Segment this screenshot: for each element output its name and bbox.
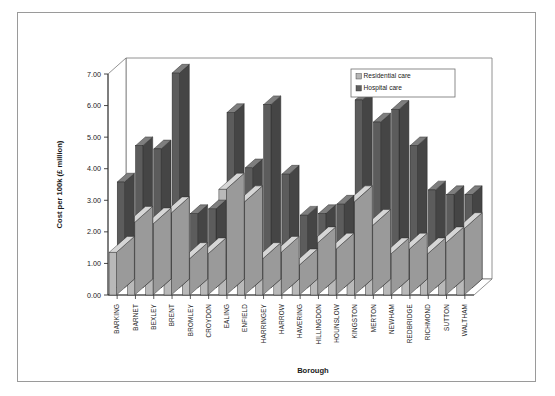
x-axis-category-label: BROMLEY bbox=[187, 303, 194, 336]
y-axis-title: Cost per 100k (£ million) bbox=[55, 140, 64, 228]
legend-label: Hospital care bbox=[364, 84, 403, 92]
x-axis-title: Borough bbox=[297, 366, 329, 375]
legend-swatch bbox=[356, 86, 361, 91]
y-axis-tick-label: 2.00 bbox=[87, 227, 101, 236]
y-axis-tick-label: 0.00 bbox=[87, 291, 101, 300]
y-axis-tick-label: 6.00 bbox=[87, 101, 101, 110]
x-axis-category-label: HARROW bbox=[278, 304, 285, 334]
x-axis-category-label: BARNET bbox=[132, 304, 139, 331]
y-axis-tick-label: 1.00 bbox=[87, 259, 101, 268]
x-axis-category-label: ENFIELD bbox=[241, 304, 248, 332]
y-axis-tick-label: 3.00 bbox=[87, 196, 101, 205]
x-axis-category-label: CROYDON bbox=[205, 304, 212, 338]
x-axis-category-label: WALTHAM bbox=[461, 304, 468, 336]
legend-swatch bbox=[356, 74, 361, 79]
x-axis-category-label: RICHMOND bbox=[424, 304, 431, 340]
x-axis-category-label: REDBRIDGE bbox=[406, 304, 413, 343]
x-axis-category-label: SUTTON bbox=[443, 304, 450, 331]
x-axis-category-label: HOUNSLOW bbox=[333, 304, 340, 343]
x-axis-category-label: BRENT bbox=[168, 304, 175, 326]
x-axis-category-label: HARRINGEY bbox=[260, 303, 267, 343]
x-axis-category-label: MERTON bbox=[370, 304, 377, 333]
x-axis-category-label: NEWHAM bbox=[388, 304, 395, 334]
y-axis-tick-label: 5.00 bbox=[87, 133, 101, 142]
x-axis-category-label: EALING bbox=[223, 304, 230, 328]
y-axis-tick-label: 7.00 bbox=[87, 70, 101, 79]
screenshot-root: 0.001.002.003.004.005.006.007.00Cost per… bbox=[0, 0, 555, 396]
x-axis-category-label: HILLINGDON bbox=[315, 304, 322, 345]
x-axis-category-label: BARKING bbox=[113, 304, 120, 334]
legend-label: Residential care bbox=[364, 72, 412, 79]
y-axis-tick-label: 4.00 bbox=[87, 164, 101, 173]
chart-plot-area: 0.001.002.003.004.005.006.007.00Cost per… bbox=[18, 13, 537, 383]
x-axis-category-label: HAVERING bbox=[296, 304, 303, 338]
x-axis-category-label: BEXLEY bbox=[150, 303, 157, 329]
figure-frame: 0.001.002.003.004.005.006.007.00Cost per… bbox=[17, 12, 536, 382]
x-axis-category-label: KINGSTON bbox=[351, 304, 358, 339]
bar-chart: 0.001.002.003.004.005.006.007.00Cost per… bbox=[18, 13, 537, 383]
